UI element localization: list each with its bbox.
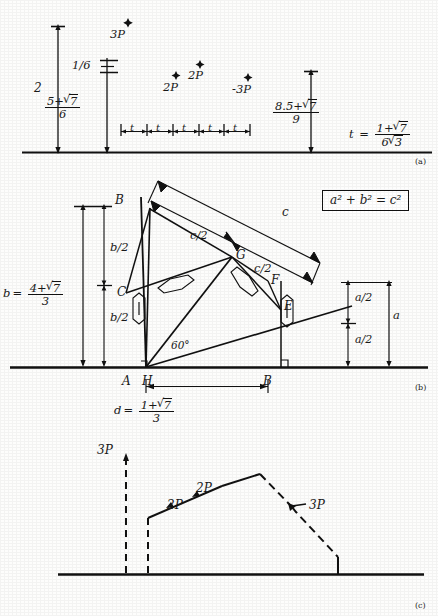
panel-b-d-definition: d= 1+7 3 bbox=[114, 398, 174, 424]
panel-b-a-total: a bbox=[393, 308, 400, 322]
panel-a-t-definition: t = 1+7 63 bbox=[349, 121, 410, 148]
panel-b-a-half-lower: a/2 bbox=[355, 333, 372, 346]
panel-c-label-2p-second: 2P bbox=[196, 481, 212, 495]
panel-a-force-label-2p-right: 2P bbox=[188, 68, 203, 82]
panel-c-segment-3p-upper bbox=[260, 474, 292, 507]
panel-b-c-half-upper-label: c/2 bbox=[190, 228, 208, 242]
panel-b-vertex-C: C bbox=[117, 285, 126, 299]
panel-b-b-half-lower: b/2 bbox=[110, 310, 129, 324]
panel-b-b-half-upper: b/2 bbox=[110, 240, 129, 254]
panel-c-graphics bbox=[0, 446, 438, 616]
panel-b-graphics bbox=[0, 175, 438, 425]
panel-label-a: (a) bbox=[415, 157, 426, 166]
panel-a-one-sixth: 1/6 bbox=[72, 58, 91, 72]
figure-root: 2 1/6 5+7 6 8.5+7 9 t = 1+7 63 3P 2P 2P … bbox=[0, 0, 438, 616]
panel-b-dim-c-label: c bbox=[282, 205, 289, 219]
panel-a-ruler-t-2: t bbox=[156, 122, 160, 133]
panel-a-ruler-t-5: t bbox=[233, 122, 237, 133]
panel-a-force-label-2p-left: 2P bbox=[163, 80, 178, 94]
panel-a-frac-right: 8.5+7 9 bbox=[273, 99, 319, 125]
panel-b-c-half-lower-label: c/2 bbox=[254, 261, 272, 275]
panel-b-vertex-E: E bbox=[284, 299, 293, 313]
panel-a-ruler-t-3: t bbox=[182, 122, 186, 133]
panel-b-vertex-B-top: B bbox=[115, 193, 124, 207]
panel-c-segment-2p-second bbox=[222, 474, 260, 486]
panel-c-label-3p-right: 3P bbox=[309, 498, 325, 512]
panel-c-label-2p-first: 2P bbox=[167, 498, 183, 512]
panel-a-label-2: 2 bbox=[34, 81, 42, 95]
panel-b-a-half-upper: a/2 bbox=[355, 291, 372, 304]
panel-a-ruler-t-1: t bbox=[130, 122, 134, 133]
panel-a-ruler-t-4: t bbox=[208, 122, 212, 133]
panel-b-vertex-B-bottom: B bbox=[263, 374, 272, 388]
panel-label-b: (b) bbox=[415, 383, 426, 392]
panel-b-vertex-G: G bbox=[236, 248, 246, 262]
panel-b-equation-box: a² + b² = c² bbox=[322, 190, 409, 211]
panel-label-c: (c) bbox=[415, 601, 426, 610]
panel-b-vertex-F: F bbox=[271, 273, 279, 287]
panel-a-frac-left: 5+7 6 bbox=[45, 94, 80, 120]
panel-c-segment-3p-lower bbox=[292, 507, 338, 557]
panel-b-vertex-H: H bbox=[142, 374, 152, 388]
panel-b-dim-b bbox=[74, 204, 112, 367]
panel-a-force-label-neg3p: -3P bbox=[232, 82, 251, 96]
panel-a-force-label-3p: 3P bbox=[110, 27, 125, 41]
panel-b-b-definition: b= 4+7 3 bbox=[3, 281, 63, 307]
panel-b-angle-60: 60° bbox=[171, 339, 190, 351]
panel-b-vertex-A: A bbox=[122, 374, 131, 388]
panel-b-dim-d bbox=[146, 380, 268, 393]
panel-c-label-3p-left: 3P bbox=[97, 443, 113, 457]
